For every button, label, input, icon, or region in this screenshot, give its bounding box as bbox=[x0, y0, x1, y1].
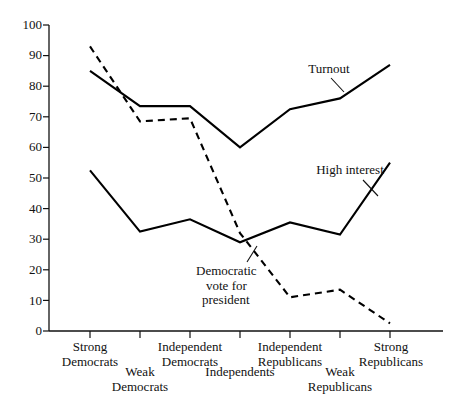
turnout-leader-line bbox=[331, 78, 344, 92]
x-label-weak-republicans: Weak Republicans bbox=[292, 365, 388, 394]
x-label-line1: Strong bbox=[45, 340, 135, 355]
x-label-weak-democrats: Weak Democrats bbox=[95, 365, 185, 394]
annotation-turnout: Turnout bbox=[292, 62, 366, 77]
y-tick-marks bbox=[43, 25, 49, 331]
x-label-strong-republicans: Strong Republicans bbox=[343, 340, 439, 369]
x-label-line1: Strong bbox=[343, 340, 439, 355]
annotation-high-interest: High interest bbox=[300, 163, 400, 178]
x-label-line2: Democrats bbox=[95, 380, 185, 395]
x-tick-marks bbox=[90, 331, 390, 338]
line-chart: 100 90 80 70 60 50 40 30 20 10 0 bbox=[0, 0, 449, 407]
x-label-line1: Independent bbox=[141, 340, 239, 355]
annotation-dem-vote-line2: vote for bbox=[206, 279, 282, 294]
annotation-dem-vote-line1: Democratic bbox=[196, 264, 282, 279]
annotation-dem-vote-line3: president bbox=[202, 293, 282, 308]
x-label-line1: Independent bbox=[240, 340, 340, 355]
series-line-turnout bbox=[90, 65, 390, 148]
x-label-line2: Republicans bbox=[343, 355, 439, 370]
annotation-democratic-vote: Democratic vote for president bbox=[196, 264, 282, 308]
x-label-line2: Republicans bbox=[292, 380, 388, 395]
